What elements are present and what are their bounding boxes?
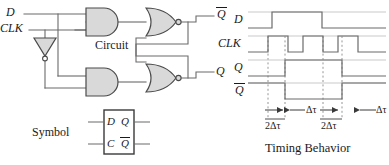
annotation-dt-first: Δτ [306, 104, 316, 115]
overbar-span-symbol-qbar: Q [120, 137, 130, 150]
overbar-span-timing-qbar: Q [234, 83, 245, 97]
symbol-pin-Q: Q [121, 115, 129, 127]
timing-label-Qbar: Q [234, 83, 245, 98]
waveform-CLK [248, 36, 386, 52]
timing-label-Q: Q [234, 60, 243, 75]
nor-gate-bottom [146, 64, 181, 92]
symbol-pin-C: C [107, 137, 114, 149]
circuit-output-label-Qbar: Q [216, 7, 227, 22]
circuit-input-label-D: D [6, 5, 15, 20]
annotation-2dt-second: 2Δτ [321, 120, 336, 131]
and-gate-bottom [86, 68, 118, 96]
timing-label-D: D [234, 12, 243, 27]
symbol-pin-D: D [107, 115, 115, 127]
timing-guide-lines [268, 36, 342, 118]
timing-caption: Timing Behavior [265, 141, 350, 156]
overbar-span-qbar: Q [216, 7, 227, 21]
inverter [34, 38, 56, 61]
circuit-output-label-Q: Q [216, 64, 225, 79]
annotation-dt-second: Δτ [376, 104, 386, 115]
timing-label-CLK: CLK [218, 36, 241, 51]
waveform-Qbar [248, 83, 386, 99]
circuit-caption: Circuit [95, 38, 128, 53]
nor-gate-top [146, 8, 181, 36]
annotation-2dt-first: 2Δτ [265, 120, 280, 131]
circuit-input-label-CLK: CLK [0, 21, 23, 36]
symbol-caption: Symbol [32, 125, 69, 140]
symbol-box [88, 110, 150, 154]
timing-baselines [248, 12, 386, 83]
symbol-pin-Qbar: Q [120, 137, 130, 150]
waveform-D [248, 12, 386, 28]
figure-d-flip-flop: D CLK Circuit Q Q Symbol D Q C Q D CLK Q… [0, 0, 389, 165]
and-gate-top [86, 8, 118, 36]
waveform-Q [248, 60, 386, 76]
timing-measure-arrows [265, 110, 376, 119]
